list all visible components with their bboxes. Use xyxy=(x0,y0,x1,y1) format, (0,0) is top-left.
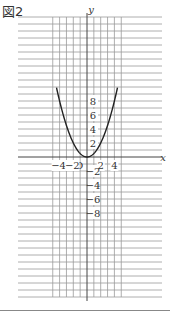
y-tick-label: 2 xyxy=(90,138,96,149)
x-axis-label: x xyxy=(160,152,166,163)
divider xyxy=(0,310,170,311)
x-tick-label: −2 xyxy=(65,160,80,171)
parabola-chart: yxO−4−2248642−2−4−6−8 xyxy=(0,0,170,323)
y-tick-label: 6 xyxy=(90,110,96,121)
x-tick-label: 4 xyxy=(111,160,117,171)
y-tick-label: −8 xyxy=(86,208,101,219)
y-tick-label: −6 xyxy=(86,194,101,205)
y-tick-label: 8 xyxy=(90,96,96,107)
y-tick-label: −2 xyxy=(86,166,101,177)
x-tick-label: −4 xyxy=(51,160,66,171)
y-tick-label: 4 xyxy=(90,124,96,135)
y-axis-label: y xyxy=(87,4,94,15)
y-tick-label: −4 xyxy=(86,180,101,191)
